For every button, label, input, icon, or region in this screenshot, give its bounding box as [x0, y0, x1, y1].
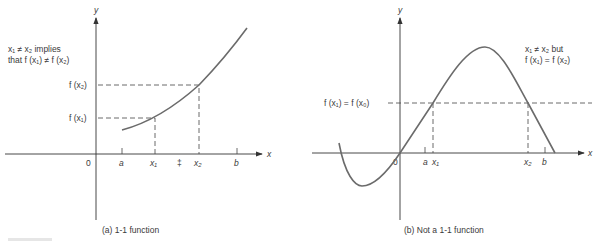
panel-a-caption: (a) 1-1 function: [102, 225, 159, 235]
panel-a-curve: [122, 28, 247, 130]
panel-a-fx1-label: f (x₁): [69, 113, 87, 123]
panel-a-tick-label: ‡: [177, 158, 182, 168]
figure-canvas: y x 0 x₁ ≠ x₂ implies that f (x₁) ≠ f (x…: [0, 0, 595, 243]
panel-b-curve: [339, 47, 555, 186]
panel-b-level-label: f (x₁) = f (x₀): [324, 98, 370, 108]
panel-a-fx2-label: f (x₂): [69, 80, 87, 90]
panel-b: y x 0 x₁ ≠ x₂ but f (x₁) = f (x₂) f (x₁)…: [312, 5, 593, 235]
panel-b-x-label: x: [587, 148, 593, 158]
panel-b-tick-label: b: [542, 157, 547, 167]
cropped-figure-label: [8, 238, 52, 241]
panel-a: y x 0 x₁ ≠ x₂ implies that f (x₁) ≠ f (x…: [5, 5, 272, 235]
panel-b-tick-label: x₂: [523, 157, 532, 167]
panel-a-tick-label: b: [234, 158, 239, 168]
panel-b-note-line2: f (x₁) = f (x₂): [525, 55, 570, 65]
panel-a-x-label: x: [266, 149, 272, 159]
panel-a-tick-label: a: [119, 158, 124, 168]
panel-b-tick-label: x₁: [431, 157, 439, 167]
panel-a-origin: 0: [86, 158, 91, 168]
panel-a-tick-label: x₂: [193, 158, 202, 168]
panel-b-y-label: y: [397, 5, 403, 15]
panel-b-note-line1: x₁ ≠ x₂ but: [525, 44, 564, 54]
panel-b-caption: (b) Not a 1-1 function: [404, 225, 484, 235]
panel-a-fx1-guide: [98, 118, 155, 154]
panel-a-note-line1: x₁ ≠ x₂ implies: [8, 44, 61, 54]
panel-a-note-line2: that f (x₁) ≠ f (x₂): [8, 55, 70, 65]
panel-a-y-label: y: [93, 5, 99, 15]
panel-b-tick-label: a: [423, 157, 428, 167]
panel-a-tick-label: x₁: [149, 158, 157, 168]
